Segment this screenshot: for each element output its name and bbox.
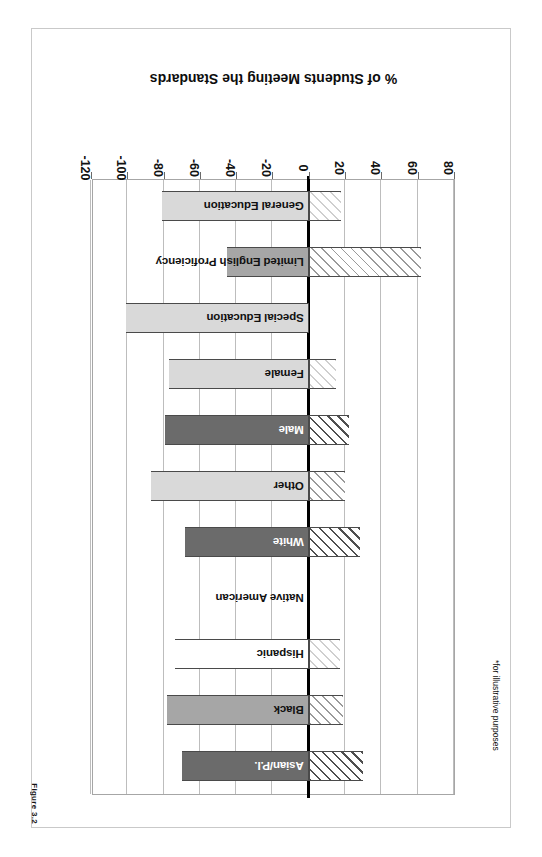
bar-row: Male: [93, 415, 454, 445]
x-tick-label: -80: [151, 148, 165, 188]
bar-row: Other: [93, 471, 454, 501]
bar-segment-positive: [309, 695, 344, 725]
x-tick-label: 0: [296, 148, 310, 188]
bar-category-label: Special Education: [206, 312, 303, 324]
bar-category-label: Hispanic: [257, 648, 304, 660]
plot-area: Asian/P.I.BlackHispanicNative AmericanWh…: [92, 179, 455, 795]
bar-row: White: [93, 527, 454, 557]
bar-segment-positive: [309, 471, 345, 501]
bar-row: Black: [93, 695, 454, 725]
bar-row: Female: [93, 359, 454, 389]
x-tick-label: -40: [223, 148, 237, 188]
figure-caption: Figure 3.2: [30, 783, 39, 824]
bar-segment-positive: [309, 527, 360, 557]
bar-row: Native American: [93, 583, 454, 613]
bar-category-label: General Education: [204, 200, 304, 212]
figure-caption-text: Figure 3.2: [30, 783, 39, 824]
bar-category-label: White: [273, 536, 304, 548]
bar-row: Asian/P.I.: [93, 751, 454, 781]
x-tick-label: -120: [78, 148, 92, 188]
bar-row: General Education: [93, 191, 454, 221]
figure-page: Figure 3.2 Urban Middle School* Mathemat…: [0, 0, 542, 857]
x-axis-title: % of Students Meeting the Standards: [92, 71, 455, 87]
bar-segment-positive: [309, 359, 336, 389]
gridline-neg120: [90, 180, 91, 794]
x-tick-label: -20: [260, 148, 274, 188]
bar-segment-positive: [309, 415, 349, 445]
x-tick-label: 40: [368, 148, 382, 188]
x-tick-label: -100: [114, 148, 128, 188]
bar-category-label: Black: [274, 704, 304, 716]
x-tick-label: 60: [405, 148, 419, 188]
bar-segment-positive: [309, 247, 422, 277]
bar-category-label: Native American: [216, 592, 304, 604]
x-tick-label: -60: [187, 148, 201, 188]
bar-row: Hispanic: [93, 639, 454, 669]
bar-row: Special Education: [93, 303, 454, 333]
bar-segment-positive: [309, 639, 340, 669]
bar-category-label: Male: [279, 424, 304, 436]
x-tick-label: 80: [441, 148, 455, 188]
x-axis: 806040200-20-40-60-80-100-120: [92, 178, 455, 179]
bar-category-label: Other: [274, 480, 304, 492]
bar-category-label: Asian/P.I.: [255, 760, 304, 772]
bar-category-label: Limited English Proficiency: [156, 256, 304, 268]
bar-row: Limited English Proficiency: [93, 247, 454, 277]
bar-segment-positive: [309, 751, 364, 781]
rotated-figure-container: Figure 3.2 Urban Middle School* Mathemat…: [31, 28, 511, 828]
bar-category-label: Female: [265, 368, 304, 380]
x-tick-label: 20: [332, 148, 346, 188]
bar-segment-positive: [309, 191, 342, 221]
